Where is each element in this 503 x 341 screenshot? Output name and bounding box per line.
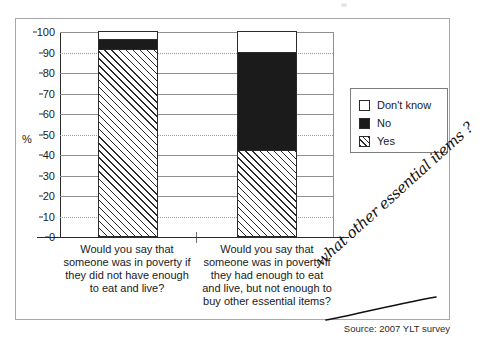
plot-area: 0102030405060708090100 <box>60 32 333 237</box>
black-square-icon <box>359 118 370 129</box>
bar-segment-yes <box>237 150 297 237</box>
y-axis-tick-mark <box>39 114 43 115</box>
bar-segment-no <box>237 52 297 151</box>
y-axis-tick-label: 20 <box>43 191 55 202</box>
y-axis-tick-label: 90 <box>43 47 55 58</box>
y-axis-tick-mark <box>39 134 43 135</box>
y-axis-tick-label: 0 <box>49 232 55 243</box>
handwritten-annotation: what other essential items ? <box>313 157 471 309</box>
plot-area-right-edge <box>333 32 334 237</box>
chart-legend: Don't know No Yes <box>350 88 448 153</box>
legend-item-no: No <box>359 114 447 132</box>
legend-item-dont-know: Don't know <box>359 96 447 114</box>
y-axis-tick-label: 60 <box>43 109 55 120</box>
y-axis-tick-mark <box>45 237 49 238</box>
y-axis-tick-mark <box>39 196 43 197</box>
y-axis-tick-label: 100 <box>37 27 55 38</box>
legend-label-dont-know: Don't know <box>377 99 431 111</box>
handwritten-arrow-stroke <box>324 296 442 322</box>
y-axis-tick-mark <box>39 52 43 53</box>
y-axis-tick-label: 80 <box>43 68 55 79</box>
y-axis-tick-mark <box>39 155 43 156</box>
y-axis-tick-mark <box>39 175 43 176</box>
y-axis-tick-mark <box>33 32 37 33</box>
x-axis-category-label-1: Would you say that someone was in povert… <box>201 243 333 308</box>
y-axis-tick-mark <box>39 73 43 74</box>
gridline <box>60 237 333 238</box>
y-axis-tick-label: 40 <box>43 150 55 161</box>
bar-stack-1 <box>237 32 297 237</box>
y-axis-tick-label: 30 <box>43 170 55 181</box>
y-axis-tick-label: 10 <box>43 211 55 222</box>
bar-segment-no <box>98 39 158 50</box>
y-axis-tick-label: 50 <box>43 129 55 140</box>
bar-stack-0 <box>98 32 158 237</box>
hatched-square-icon <box>359 136 370 147</box>
stacked-bar-chart: % 0102030405060708090100 Would you say t… <box>0 0 503 341</box>
bar-segment-yes <box>98 49 158 237</box>
white-square-icon <box>359 100 370 111</box>
y-axis-unit-label: % <box>22 133 32 145</box>
y-axis-tick-label: 70 <box>43 88 55 99</box>
y-axis-tick-mark <box>39 93 43 94</box>
bar-segment-don-t-know <box>98 31 158 40</box>
legend-label-yes: Yes <box>377 135 395 147</box>
y-axis-tick-mark <box>39 216 43 217</box>
bar-segment-don-t-know <box>237 31 297 53</box>
legend-label-no: No <box>377 117 391 129</box>
source-note: Source: 2007 YLT survey <box>0 323 450 334</box>
x-axis-category-label-0: Would you say that someone was in povert… <box>63 243 191 295</box>
